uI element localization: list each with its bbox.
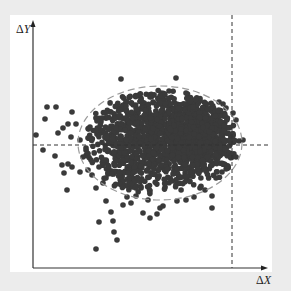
x-variable: X [264, 273, 271, 287]
x-axis-label: ΔX [256, 274, 271, 286]
x-axis-arrow-icon [261, 266, 268, 271]
y-axis-label: ΔY [16, 23, 30, 35]
x-delta-symbol: Δ [256, 273, 264, 287]
y-axis-arrow-icon [31, 20, 36, 27]
y-delta-symbol: Δ [16, 22, 24, 36]
y-variable: Y [24, 22, 31, 36]
data-points [33, 75, 246, 252]
scatter-plot [0, 0, 291, 291]
